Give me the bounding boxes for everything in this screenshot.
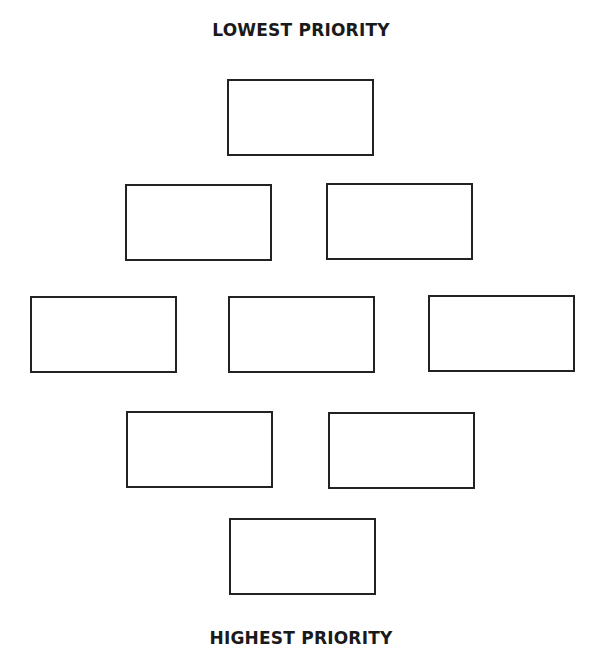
priority-box-row3-3[interactable] (428, 295, 575, 372)
highest-priority-label: HIGHEST PRIORITY (0, 628, 602, 648)
priority-box-row4-2[interactable] (328, 412, 475, 489)
priority-box-row3-1[interactable] (30, 296, 177, 373)
priority-box-row2-2[interactable] (326, 183, 473, 260)
priority-box-row5-1[interactable] (229, 518, 376, 595)
lowest-priority-label: LOWEST PRIORITY (0, 20, 602, 40)
priority-box-row3-2[interactable] (228, 296, 375, 373)
priority-box-row4-1[interactable] (126, 411, 273, 488)
priority-box-row1-1[interactable] (227, 79, 374, 156)
priority-box-row2-1[interactable] (125, 184, 272, 261)
